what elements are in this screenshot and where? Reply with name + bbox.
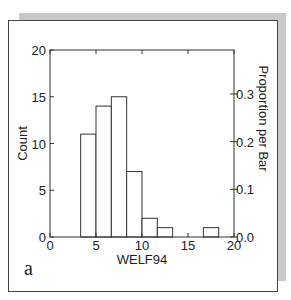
y-right-tick-label: 0.2 — [236, 135, 254, 150]
y-tick-label: 0 — [39, 230, 46, 245]
y-right-tick-label: 0.1 — [236, 182, 254, 197]
histogram-bar — [81, 134, 96, 237]
y-tick-label: 5 — [39, 183, 46, 198]
y-axis-label: Count — [15, 126, 30, 161]
x-tick-label: 0 — [46, 238, 53, 253]
histogram-bar — [157, 228, 172, 237]
histogram-bar — [142, 218, 157, 237]
x-tick-label: 10 — [135, 238, 149, 253]
y-tick-label: 15 — [32, 90, 46, 105]
x-tick-label: 5 — [92, 238, 99, 253]
x-tick-label: 15 — [181, 238, 195, 253]
y-right-axis-label: Proportion per Bar — [256, 65, 271, 172]
histogram-bar — [111, 97, 126, 237]
histogram-chart: 05101520051015200.00.10.20.3WELF94CountP… — [0, 0, 291, 300]
y-right-tick-label: 0.3 — [236, 87, 254, 102]
histogram-bar — [96, 106, 111, 237]
histogram-bar — [127, 172, 142, 237]
y-tick-label: 10 — [32, 137, 46, 152]
x-axis-label: WELF94 — [117, 252, 168, 267]
panel-label: a — [24, 257, 33, 280]
y-tick-label: 20 — [32, 43, 46, 58]
histogram-bar — [203, 228, 218, 237]
y-right-tick-label: 0.0 — [236, 230, 254, 245]
